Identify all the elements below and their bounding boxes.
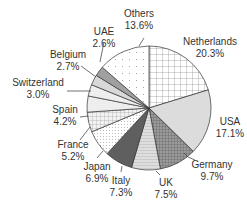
leader-line-belgium (81, 66, 96, 77)
label-spain: Spain4.2% (52, 104, 78, 127)
label-others: Others13.6% (124, 8, 154, 31)
leader-line-uk (156, 171, 160, 175)
label-usa: USA17.1% (216, 116, 244, 139)
leader-line-italy (121, 166, 122, 172)
leader-line-spain (80, 116, 88, 117)
leader-line-others (139, 38, 144, 46)
pie-slices (87, 46, 211, 170)
label-uae: UAE2.6% (93, 26, 116, 49)
leader-line-japan (97, 151, 103, 158)
label-italy: Italy7.3% (110, 175, 133, 198)
pie-chart: Netherlands20.3%USA17.1%Germany9.7%UK7.5… (0, 0, 247, 213)
label-belgium: Belgium2.7% (50, 49, 86, 72)
label-japan: Japan6.9% (83, 161, 110, 184)
label-netherlands: Netherlands20.3% (183, 36, 237, 59)
label-switzerland: Switzerland3.0% (12, 77, 64, 100)
label-germany: Germany9.7% (191, 159, 232, 182)
label-uk: UK7.5% (155, 177, 178, 200)
label-france: France5.2% (57, 139, 89, 162)
